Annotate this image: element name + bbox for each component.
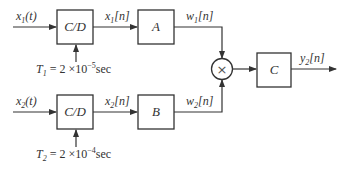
system-label-b: B [152, 104, 160, 119]
multiply-icon: × [217, 62, 228, 77]
multiplier: × [212, 59, 233, 80]
discrete-signal-label-2: x2[n] [104, 94, 130, 110]
branch-1: x1(t) C/D T1 = 2 ×10−5sec x1[n] A w1[n] [13, 9, 222, 78]
cd-label-1: C/D [64, 19, 86, 34]
sample-period-label-1: T1 = 2 ×10−5sec [36, 61, 111, 78]
output-wire-1 [174, 27, 222, 58]
sample-period-label-2: T2 = 2 ×10−4sec [36, 146, 111, 163]
system-label-a: A [151, 19, 160, 34]
discrete-signal-label-1: x1[n] [104, 9, 130, 25]
output-label-1: w1[n] [186, 9, 214, 25]
block-diagram: x1(t) C/D T1 = 2 ×10−5sec x1[n] A w1[n] … [0, 0, 348, 169]
final-output-label: y2[n] [299, 51, 325, 67]
input-label-2: x2(t) [15, 94, 37, 110]
input-label-1: x1(t) [15, 9, 37, 25]
output-label-2: w2[n] [186, 94, 214, 110]
branch-2: x2(t) C/D T2 = 2 ×10−4sec x2[n] B w2[n] [13, 80, 222, 163]
system-label-c: C [270, 62, 279, 77]
cd-label-2: C/D [64, 104, 86, 119]
